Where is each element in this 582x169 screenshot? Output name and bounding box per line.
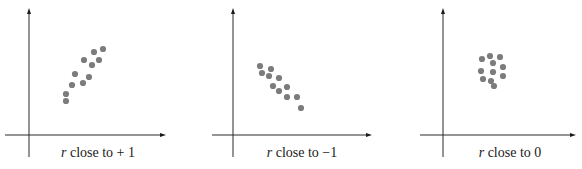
data-point bbox=[81, 57, 87, 63]
x-axis-arrow-icon bbox=[570, 133, 576, 137]
data-point bbox=[480, 76, 486, 82]
data-point bbox=[89, 62, 95, 68]
caption-negative: r close to −1 bbox=[267, 145, 338, 161]
data-point bbox=[276, 75, 282, 81]
data-point bbox=[69, 82, 75, 88]
data-point bbox=[500, 64, 506, 70]
y-axis-arrow-icon bbox=[231, 8, 235, 14]
caption-text: close to −1 bbox=[272, 145, 337, 160]
data-point bbox=[257, 63, 263, 69]
caption-positive: r close to + 1 bbox=[61, 145, 135, 161]
caption-zero: r close to 0 bbox=[479, 145, 542, 161]
data-point bbox=[491, 83, 497, 89]
data-point bbox=[490, 69, 496, 75]
data-point bbox=[284, 84, 290, 90]
scatter-figure bbox=[0, 0, 582, 169]
data-point bbox=[490, 60, 496, 66]
data-point bbox=[86, 74, 92, 80]
data-point bbox=[284, 94, 290, 100]
data-point bbox=[487, 53, 493, 59]
data-point bbox=[298, 105, 304, 111]
y-axis-arrow-icon bbox=[441, 8, 445, 14]
data-point bbox=[478, 68, 484, 74]
data-point bbox=[276, 88, 282, 94]
panel-positive bbox=[5, 8, 166, 157]
data-point bbox=[268, 66, 274, 72]
data-point bbox=[270, 83, 276, 89]
data-point bbox=[96, 57, 102, 63]
data-point bbox=[91, 49, 97, 55]
data-point bbox=[100, 46, 106, 52]
data-point bbox=[72, 71, 78, 77]
data-point bbox=[266, 73, 272, 79]
data-point bbox=[80, 80, 86, 86]
data-point bbox=[259, 70, 265, 76]
data-point bbox=[63, 98, 69, 104]
x-axis-arrow-icon bbox=[366, 133, 372, 137]
data-point bbox=[497, 54, 503, 60]
data-point bbox=[63, 91, 69, 97]
data-point bbox=[500, 73, 506, 79]
caption-text: close to + 1 bbox=[66, 145, 135, 160]
y-axis-arrow-icon bbox=[27, 8, 31, 14]
panel-negative bbox=[212, 8, 372, 157]
x-axis-arrow-icon bbox=[160, 133, 166, 137]
data-point bbox=[294, 94, 300, 100]
data-point bbox=[479, 56, 485, 62]
panel-zero bbox=[420, 8, 576, 157]
caption-text: close to 0 bbox=[484, 145, 541, 160]
